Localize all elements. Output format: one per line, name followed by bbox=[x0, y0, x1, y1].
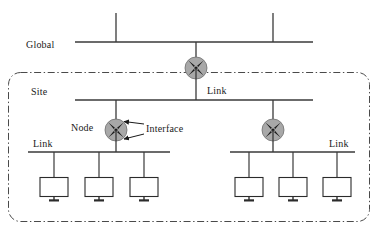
network-topology-diagram: Global Site Link Link Link Node Interfac… bbox=[0, 0, 380, 231]
host-icon-5[interactable] bbox=[279, 178, 307, 201]
label-site: Site bbox=[31, 87, 47, 97]
host-icon-3[interactable] bbox=[130, 178, 158, 201]
label-interface: Interface bbox=[146, 124, 183, 134]
label-link-site: Link bbox=[207, 86, 227, 96]
label-link-right: Link bbox=[329, 139, 349, 149]
host-icon-6[interactable] bbox=[323, 178, 351, 201]
label-link-left: Link bbox=[33, 139, 53, 149]
diagram-canvas bbox=[0, 0, 380, 231]
interface-arrow-top bbox=[124, 122, 144, 125]
site-boundary bbox=[9, 73, 370, 222]
host-icon-2[interactable] bbox=[85, 178, 113, 201]
label-node: Node bbox=[71, 123, 93, 133]
host-icon-4[interactable] bbox=[235, 178, 263, 201]
interface-arrow-bottom bbox=[124, 134, 144, 139]
label-global: Global bbox=[26, 40, 54, 50]
host-icon-1[interactable] bbox=[40, 178, 68, 201]
